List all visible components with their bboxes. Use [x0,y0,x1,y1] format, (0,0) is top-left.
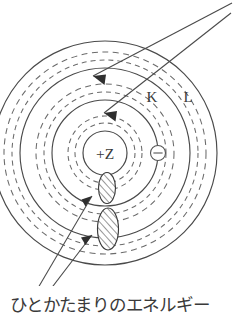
incident-ray-upper [93,3,232,76]
incident-ray-lower [104,13,231,113]
shell-label-k: K [147,89,158,105]
atom-diagram-figure: +Z K L ひとかたまりのエネルギー [0,0,234,318]
energy-packet-lower [98,208,119,250]
energy-packet-upper [99,173,116,204]
figure-caption: ひとかたまりのエネルギー [10,291,232,316]
caption-pointer-lower-arrowhead [81,235,92,245]
atom-diagram-canvas: +Z K L [0,0,234,318]
incident-ray-upper-arrowhead [93,75,106,86]
shell-label-l: L [183,89,192,105]
nucleus-label: +Z [96,145,114,162]
